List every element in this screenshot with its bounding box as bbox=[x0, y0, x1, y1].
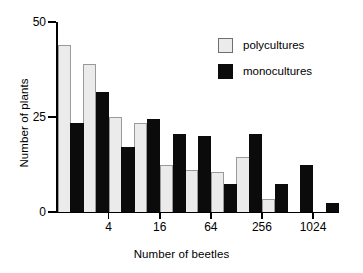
bar-monocultures-10 bbox=[326, 203, 339, 213]
bar-polycultures-3 bbox=[134, 123, 147, 212]
bar-monocultures-4 bbox=[173, 134, 186, 212]
legend: polycultures monocultures bbox=[218, 38, 312, 90]
y-axis-tick bbox=[48, 211, 56, 213]
bar-polycultures-7 bbox=[236, 157, 249, 212]
legend-label-monocultures: monocultures bbox=[243, 65, 312, 78]
bar-monocultures-3 bbox=[147, 119, 160, 212]
x-axis-tick-label: 4 bbox=[87, 221, 131, 234]
bar-monocultures-5 bbox=[198, 136, 211, 212]
x-axis-title: Number of beetles bbox=[0, 248, 363, 260]
bar-monocultures-0 bbox=[70, 123, 83, 212]
y-axis-tick bbox=[48, 21, 56, 23]
bar-polycultures-2 bbox=[109, 117, 122, 212]
y-axis-tick-label: 0 bbox=[4, 206, 46, 218]
x-axis-tick bbox=[159, 212, 161, 219]
legend-swatch-monocultures-icon bbox=[218, 64, 233, 79]
bar-chart-figure: Number of plants Number of beetles 02550… bbox=[0, 0, 363, 273]
bar-polycultures-4 bbox=[160, 165, 173, 213]
y-axis-tick-label: 50 bbox=[4, 16, 46, 28]
x-axis-tick-label: 256 bbox=[240, 221, 284, 234]
legend-item-polycultures: polycultures bbox=[218, 38, 312, 53]
legend-label-polycultures: polycultures bbox=[243, 39, 304, 52]
y-axis-tick bbox=[48, 116, 56, 118]
bar-monocultures-2 bbox=[121, 147, 134, 212]
x-axis-tick bbox=[312, 212, 314, 219]
legend-swatch-polycultures-icon bbox=[218, 38, 233, 53]
x-axis-tick-label: 16 bbox=[138, 221, 182, 234]
x-axis-tick bbox=[261, 212, 263, 219]
y-axis-tick-label: 25 bbox=[4, 111, 46, 123]
y-axis-title: Number of plants bbox=[18, 43, 30, 203]
x-axis-tick bbox=[210, 212, 212, 219]
bar-polycultures-1 bbox=[83, 64, 96, 212]
bar-monocultures-7 bbox=[249, 134, 262, 212]
bar-monocultures-1 bbox=[96, 92, 109, 212]
bar-polycultures-8 bbox=[262, 199, 275, 212]
bar-monocultures-9 bbox=[300, 165, 313, 213]
x-axis-tick-label: 1024 bbox=[291, 221, 335, 234]
bar-polycultures-5 bbox=[185, 170, 198, 212]
legend-item-monocultures: monocultures bbox=[218, 64, 312, 79]
bar-polycultures-6 bbox=[211, 172, 224, 212]
x-axis-tick bbox=[108, 212, 110, 219]
bar-polycultures-0 bbox=[58, 45, 71, 212]
bar-monocultures-6 bbox=[224, 184, 237, 213]
x-axis-tick-label: 64 bbox=[189, 221, 233, 234]
bar-monocultures-8 bbox=[275, 184, 288, 213]
